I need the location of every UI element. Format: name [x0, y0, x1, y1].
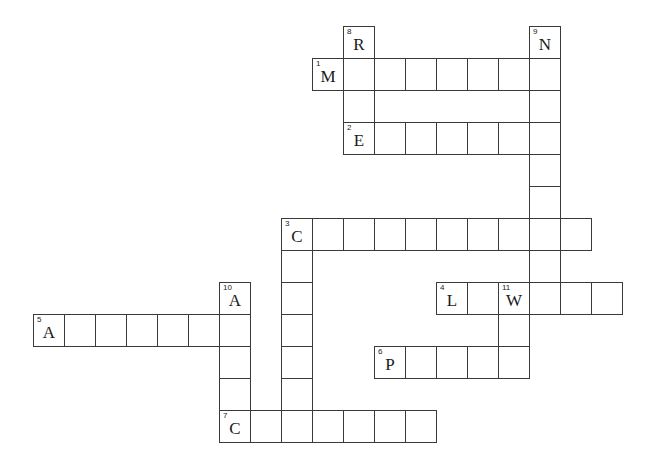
crossword-cell[interactable]	[281, 378, 313, 411]
crossword-cell[interactable]	[374, 122, 406, 155]
crossword-cell[interactable]	[343, 218, 375, 251]
crossword-cell[interactable]	[498, 314, 530, 347]
crossword-cell[interactable]	[591, 282, 623, 315]
crossword-cell[interactable]: 1M	[312, 58, 344, 91]
crossword-cell[interactable]	[498, 122, 530, 155]
crossword-cell[interactable]: 5A	[33, 314, 65, 347]
crossword-cell[interactable]	[498, 346, 530, 379]
crossword-cell[interactable]	[405, 410, 437, 443]
clue-number: 5	[37, 316, 41, 324]
clue-number: 3	[285, 220, 289, 228]
clue-number: 4	[440, 284, 444, 292]
crossword-cell[interactable]	[436, 346, 468, 379]
crossword-cell[interactable]	[560, 218, 592, 251]
crossword-cell[interactable]	[188, 314, 220, 347]
crossword-cell[interactable]	[219, 346, 251, 379]
crossword-cell[interactable]	[529, 250, 561, 283]
crossword-cell[interactable]	[436, 58, 468, 91]
clue-number: 7	[223, 412, 227, 420]
crossword-cell[interactable]	[498, 218, 530, 251]
crossword-cell[interactable]	[529, 90, 561, 123]
crossword-cell[interactable]	[281, 346, 313, 379]
crossword-cell[interactable]	[529, 186, 561, 219]
crossword-cell[interactable]	[529, 154, 561, 187]
crossword-cell[interactable]	[312, 410, 344, 443]
crossword-cell[interactable]	[64, 314, 96, 347]
crossword-cell[interactable]: 4L	[436, 282, 468, 315]
cell-letter: L	[437, 292, 467, 310]
crossword-cell[interactable]: 6P	[374, 346, 406, 379]
crossword-cell[interactable]: 2E	[343, 122, 375, 155]
crossword-cell[interactable]	[281, 250, 313, 283]
crossword-cell[interactable]: 3C	[281, 218, 313, 251]
cell-letter: N	[530, 36, 560, 54]
crossword-grid: 1M2E3C4L11W5A6P7C8R9N10A	[0, 0, 651, 465]
crossword-cell[interactable]	[436, 218, 468, 251]
crossword-cell[interactable]	[405, 122, 437, 155]
crossword-cell[interactable]	[560, 282, 592, 315]
crossword-cell[interactable]	[436, 122, 468, 155]
crossword-cell[interactable]	[281, 282, 313, 315]
crossword-cell[interactable]: 9N	[529, 26, 561, 59]
crossword-cell[interactable]: 10A	[219, 282, 251, 315]
crossword-cell[interactable]	[219, 378, 251, 411]
cell-letter: M	[313, 68, 343, 86]
clue-number: 6	[378, 348, 382, 356]
crossword-cell[interactable]: 8R	[343, 26, 375, 59]
cell-letter: C	[282, 228, 312, 246]
crossword-cell[interactable]	[529, 122, 561, 155]
crossword-cell[interactable]	[126, 314, 158, 347]
crossword-cell[interactable]	[467, 282, 499, 315]
crossword-cell[interactable]	[157, 314, 189, 347]
cell-letter: W	[499, 292, 529, 310]
cell-letter: A	[34, 324, 64, 342]
clue-number: 2	[347, 124, 351, 132]
crossword-cell[interactable]: 7C	[219, 410, 251, 443]
crossword-cell[interactable]	[529, 218, 561, 251]
cell-letter: E	[344, 132, 374, 150]
clue-number: 8	[347, 28, 351, 36]
crossword-cell[interactable]	[343, 90, 375, 123]
crossword-cell[interactable]	[467, 58, 499, 91]
crossword-cell[interactable]	[312, 218, 344, 251]
crossword-cell[interactable]	[498, 58, 530, 91]
crossword-cell[interactable]	[529, 58, 561, 91]
crossword-cell[interactable]	[250, 410, 282, 443]
crossword-cell[interactable]	[529, 282, 561, 315]
cell-letter: P	[375, 356, 405, 374]
crossword-cell[interactable]	[467, 122, 499, 155]
crossword-cell[interactable]	[374, 58, 406, 91]
crossword-cell[interactable]	[219, 314, 251, 347]
crossword-cell[interactable]: 11W	[498, 282, 530, 315]
crossword-cell[interactable]	[405, 218, 437, 251]
crossword-cell[interactable]	[405, 346, 437, 379]
cell-letter: C	[220, 420, 250, 438]
crossword-cell[interactable]	[95, 314, 127, 347]
crossword-cell[interactable]	[405, 58, 437, 91]
crossword-cell[interactable]	[343, 410, 375, 443]
crossword-cell[interactable]	[374, 218, 406, 251]
crossword-cell[interactable]	[281, 314, 313, 347]
crossword-cell[interactable]	[343, 58, 375, 91]
clue-number: 9	[533, 28, 537, 36]
crossword-cell[interactable]	[281, 410, 313, 443]
crossword-cell[interactable]	[374, 410, 406, 443]
cell-letter: R	[344, 36, 374, 54]
crossword-cell[interactable]	[467, 346, 499, 379]
crossword-cell[interactable]	[467, 218, 499, 251]
cell-letter: A	[220, 292, 250, 310]
